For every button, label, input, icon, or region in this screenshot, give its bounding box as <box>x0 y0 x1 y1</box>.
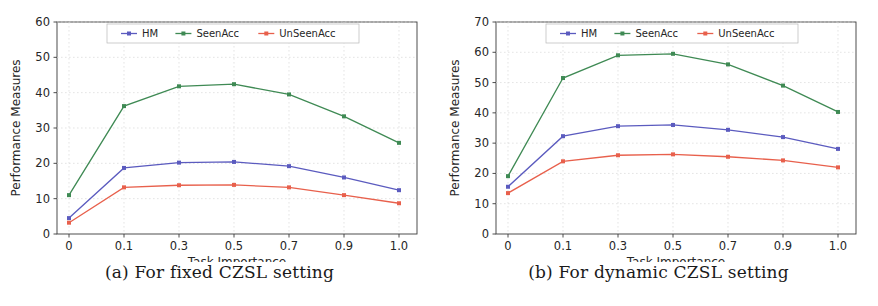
data-point-hm <box>122 166 126 170</box>
data-point-seenacc <box>836 110 840 114</box>
legend-label-seenacc: SeenAcc <box>635 28 678 39</box>
data-point-hm <box>561 134 565 138</box>
x-axis-tick-label: 0.1 <box>554 239 572 253</box>
data-point-unseenacc <box>781 158 785 162</box>
y-axis-tick-label: 40 <box>35 86 50 100</box>
x-axis-tick-label: 0 <box>504 239 511 253</box>
data-point-hm <box>726 128 730 132</box>
y-axis-tick-label: 40 <box>474 106 489 120</box>
data-point-hm <box>671 123 675 127</box>
data-point-seenacc <box>342 114 346 118</box>
chart-a: 010203040506000.10.30.50.70.91.0Task Imp… <box>0 0 439 262</box>
y-axis-title: Performance Measures <box>448 59 462 196</box>
x-axis-tick-label: 1.0 <box>390 239 408 253</box>
y-axis-tick-label: 30 <box>35 121 50 135</box>
y-axis-tick-label: 60 <box>474 45 489 59</box>
data-point-hm <box>232 160 236 164</box>
legend-marker-hm <box>127 32 131 36</box>
x-axis-tick-label: 0.9 <box>774 239 792 253</box>
data-point-seenacc <box>287 92 291 96</box>
data-point-unseenacc <box>287 185 291 189</box>
y-axis-tick-label: 20 <box>474 166 489 180</box>
legend-marker-unseenacc <box>264 32 268 36</box>
data-point-unseenacc <box>561 159 565 163</box>
legend-marker-seenacc <box>181 32 185 36</box>
y-axis-tick-label: 60 <box>35 15 50 29</box>
legend-label-unseenacc: UnSeenAcc <box>279 28 335 39</box>
data-point-seenacc <box>616 53 620 57</box>
y-axis-tick-label: 20 <box>35 156 50 170</box>
x-axis-tick-label: 0.5 <box>225 239 243 253</box>
data-point-seenacc <box>232 82 236 86</box>
data-point-unseenacc <box>232 183 236 187</box>
y-axis-tick-label: 0 <box>482 227 489 241</box>
data-point-seenacc <box>122 104 126 108</box>
legend-marker-hm <box>566 32 570 36</box>
subfigure-b: 01020304050607000.10.30.50.70.91.0Task I… <box>439 0 878 306</box>
data-point-hm <box>836 147 840 151</box>
legend-label-seenacc: SeenAcc <box>196 28 239 39</box>
data-point-hm <box>506 185 510 189</box>
x-axis-title: Task Importance <box>626 255 725 262</box>
data-point-unseenacc <box>671 152 675 156</box>
y-axis-tick-label: 70 <box>474 15 489 29</box>
legend-marker-unseenacc <box>703 32 707 36</box>
data-point-seenacc <box>781 84 785 88</box>
y-axis-tick-label: 50 <box>35 50 50 64</box>
data-point-unseenacc <box>506 191 510 195</box>
data-point-unseenacc <box>397 201 401 205</box>
data-point-hm <box>287 164 291 168</box>
x-axis-tick-label: 0.3 <box>170 239 188 253</box>
data-point-hm <box>67 216 71 220</box>
data-point-seenacc <box>506 174 510 178</box>
figure-row: 010203040506000.10.30.50.70.91.0Task Imp… <box>0 0 878 306</box>
legend-label-hm: HM <box>142 28 158 39</box>
x-axis-tick-label: 0.1 <box>115 239 133 253</box>
x-axis-tick-label: 0.7 <box>719 239 737 253</box>
data-point-unseenacc <box>177 183 181 187</box>
data-point-unseenacc <box>342 193 346 197</box>
y-axis-tick-label: 10 <box>35 192 50 206</box>
y-axis-title: Performance Measures <box>9 59 23 196</box>
data-point-unseenacc <box>616 153 620 157</box>
y-axis-tick-label: 50 <box>474 76 489 90</box>
subfigure-a: 010203040506000.10.30.50.70.91.0Task Imp… <box>0 0 439 306</box>
line-chart-a-svg: 010203040506000.10.30.50.70.91.0Task Imp… <box>0 0 439 262</box>
y-axis-tick-label: 30 <box>474 136 489 150</box>
data-point-seenacc <box>177 84 181 88</box>
x-axis-tick-label: 0.9 <box>335 239 353 253</box>
legend-label-unseenacc: UnSeenAcc <box>718 28 774 39</box>
legend-marker-seenacc <box>620 32 624 36</box>
data-point-unseenacc <box>836 165 840 169</box>
data-point-seenacc <box>726 62 730 66</box>
subfigure-b-caption: (b) For dynamic CZSL setting <box>439 262 878 282</box>
data-point-hm <box>616 124 620 128</box>
x-axis-tick-label: 0.7 <box>280 239 298 253</box>
data-point-hm <box>177 161 181 165</box>
data-point-seenacc <box>397 141 401 145</box>
data-point-hm <box>342 175 346 179</box>
data-point-hm <box>397 188 401 192</box>
x-axis-title: Task Importance <box>187 255 286 262</box>
data-point-seenacc <box>671 52 675 56</box>
data-point-hm <box>781 135 785 139</box>
data-point-seenacc <box>561 76 565 80</box>
y-axis-tick-label: 0 <box>43 227 50 241</box>
data-point-unseenacc <box>726 155 730 159</box>
x-axis-tick-label: 1.0 <box>829 239 847 253</box>
data-point-seenacc <box>67 193 71 197</box>
x-axis-tick-label: 0.3 <box>609 239 627 253</box>
y-axis-tick-label: 10 <box>474 197 489 211</box>
data-point-unseenacc <box>67 221 71 225</box>
legend-label-hm: HM <box>581 28 597 39</box>
subfigure-a-caption: (a) For fixed CZSL setting <box>0 262 439 282</box>
data-point-unseenacc <box>122 185 126 189</box>
x-axis-tick-label: 0 <box>65 239 72 253</box>
x-axis-tick-label: 0.5 <box>664 239 682 253</box>
chart-b: 01020304050607000.10.30.50.70.91.0Task I… <box>439 0 878 262</box>
line-chart-b-svg: 01020304050607000.10.30.50.70.91.0Task I… <box>439 0 878 262</box>
